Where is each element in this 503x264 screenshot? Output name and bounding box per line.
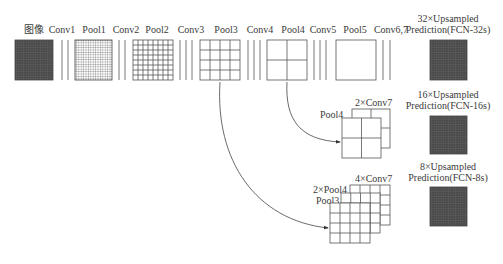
fcn16-stack [342, 109, 390, 158]
pool3-skip-arrow [220, 82, 328, 228]
pool4-skip-arrow [287, 82, 340, 142]
diagram-graphics [0, 0, 503, 264]
fcn-diagram: 图像 Conv1 Pool1 Conv2 Pool2 Conv3 Pool3 C… [0, 0, 503, 264]
fcn8-stack [330, 185, 390, 243]
image-square [15, 40, 53, 80]
pool5-square [336, 40, 376, 80]
pool4-square [267, 40, 307, 80]
fcn16-prediction [430, 116, 467, 154]
fcn8-prediction [430, 187, 467, 226]
pool3-square [200, 40, 240, 80]
pool2-square [133, 40, 173, 80]
fcn32-prediction [430, 40, 467, 80]
